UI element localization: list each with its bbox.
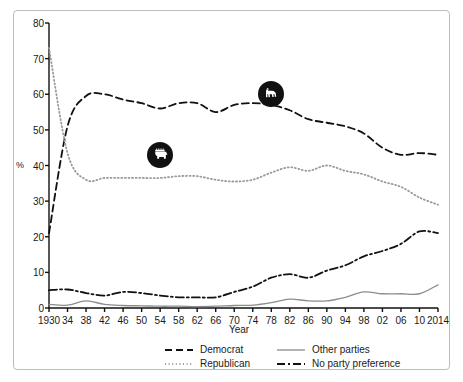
series-line-republican (49, 48, 438, 205)
legend-item-republican: Republican (164, 358, 276, 369)
democrat-donkey-marker (258, 81, 284, 107)
elephant-icon (153, 148, 168, 161)
legend-item-democrat: Democrat (164, 344, 276, 355)
legend-label: No party preference (312, 358, 400, 369)
chart-figure: % 01020304050607080 19303438424650545862… (13, 10, 450, 370)
legend-swatch-no-party-preference (276, 359, 306, 369)
donkey-icon (264, 87, 278, 101)
legend-swatch-other-parties (276, 345, 306, 355)
legend-label: Democrat (200, 344, 243, 355)
legend-swatch-democrat (164, 345, 194, 355)
legend-label: Republican (200, 358, 250, 369)
legend-item-other-parties: Other parties (276, 344, 370, 355)
chart-legend: Democrat Other parties Republican No par… (164, 344, 444, 372)
chart-canvas (14, 11, 451, 371)
legend-label: Other parties (312, 344, 370, 355)
republican-elephant-marker (147, 142, 173, 168)
legend-item-no-party-preference: No party preference (276, 358, 400, 369)
legend-row: Republican No party preference (164, 358, 444, 369)
series-line-no-party-preference (49, 231, 438, 298)
series-line-democrat (49, 93, 438, 233)
legend-swatch-republican (164, 359, 194, 369)
legend-row: Democrat Other parties (164, 344, 444, 355)
